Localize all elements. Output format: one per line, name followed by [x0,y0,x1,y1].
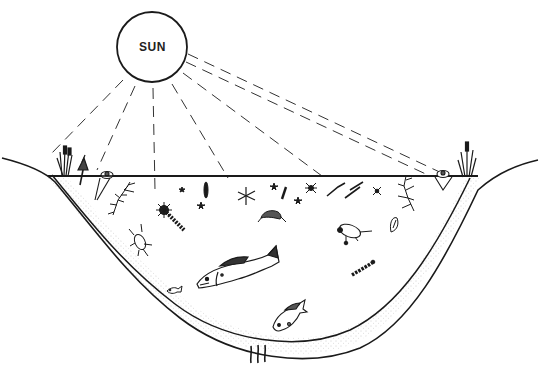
sun-rays [50,54,446,190]
plankton [179,182,381,209]
floating-plant-right [435,171,452,191]
larva-left [156,202,184,230]
diving-beetle [338,222,373,245]
water-beetle [129,224,152,256]
sun-label: SUN [139,40,166,54]
diagram-canvas [0,0,540,380]
snail [390,218,397,232]
larva-right [352,260,375,275]
pond-ecosystem-diagram: SUN [0,0,540,380]
emergent-plants-right [458,142,476,177]
floating-plant-left [95,172,116,201]
sunfish [273,300,307,331]
submerged-plant-right [398,176,414,211]
large-fish [197,246,279,288]
crustacean [258,211,286,222]
submerged-plant-left [108,182,135,215]
